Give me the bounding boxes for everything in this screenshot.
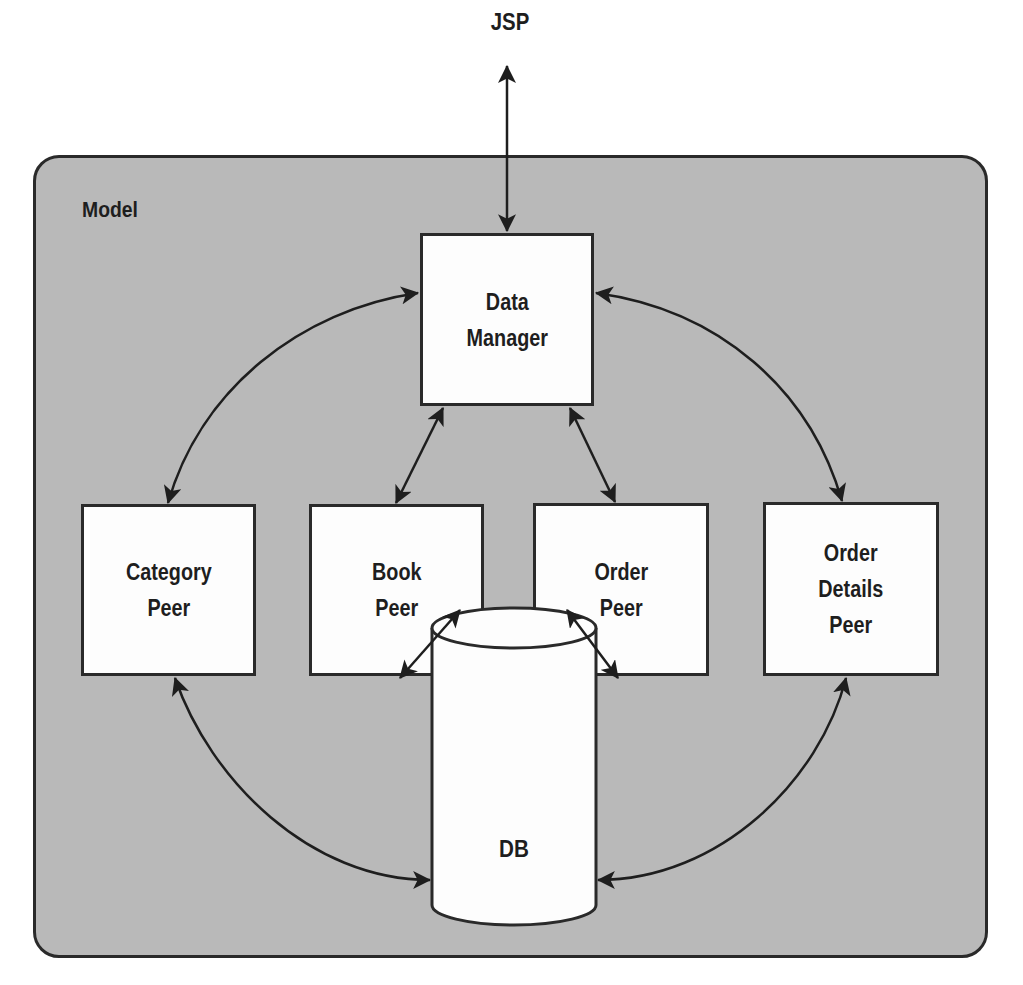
- order-peer-node: Order Peer: [533, 503, 709, 676]
- db-label: DB: [443, 835, 586, 863]
- model-label: Model: [82, 197, 138, 223]
- category-peer-label: Category Peer: [126, 554, 212, 626]
- book-peer-label: Book Peer: [372, 554, 421, 626]
- category-peer-node: Category Peer: [81, 504, 256, 676]
- book-peer-node: Book Peer: [309, 504, 484, 676]
- order-details-peer-node: Order Details Peer: [763, 502, 939, 676]
- data-manager-node: Data Manager: [420, 233, 594, 406]
- order-peer-label: Order Peer: [594, 554, 648, 626]
- data-manager-label: Data Manager: [466, 284, 547, 356]
- order-details-peer-label: Order Details Peer: [819, 535, 884, 643]
- jsp-label: JSP: [485, 8, 536, 36]
